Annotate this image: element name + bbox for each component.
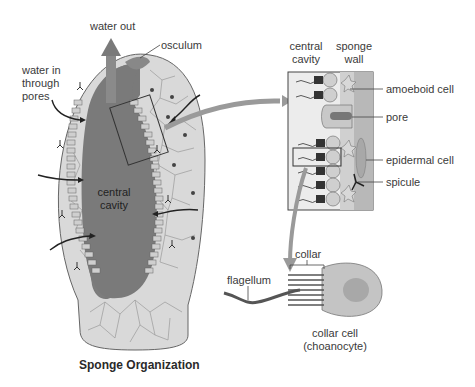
spicule-label: spicule bbox=[386, 176, 420, 189]
inset-sponge-wall-1: sponge bbox=[334, 40, 374, 53]
diagram-title: Sponge Organization bbox=[79, 358, 200, 372]
water-in-label-2: through bbox=[22, 77, 59, 90]
central-cavity-label-2: cavity bbox=[94, 199, 134, 212]
collar-cell bbox=[224, 260, 382, 316]
sponge-diagram bbox=[0, 0, 475, 387]
water-in-label-1: water in bbox=[22, 64, 61, 77]
collar-label: collar bbox=[295, 248, 321, 261]
central-cavity-label-1: central bbox=[94, 186, 134, 199]
water-in-label-3: pores bbox=[22, 90, 50, 103]
pore-label: pore bbox=[386, 111, 408, 124]
collar-cell-label-2: (choanocyte) bbox=[300, 340, 370, 353]
amoeboid-cell-label: amoeboid cell bbox=[386, 83, 454, 96]
inset-central-cavity-1: central bbox=[286, 40, 326, 53]
epidermal-cell-label: epidermal cell bbox=[386, 154, 454, 167]
collar-cell-label-1: collar cell bbox=[300, 327, 370, 340]
inset-central-cavity-2: cavity bbox=[286, 53, 326, 66]
flagellum-label: flagellum bbox=[227, 274, 271, 287]
osculum-label: osculum bbox=[161, 39, 202, 52]
water-out-label: water out bbox=[90, 20, 135, 33]
inset-panel bbox=[288, 72, 383, 210]
inset-sponge-wall-2: wall bbox=[334, 53, 374, 66]
